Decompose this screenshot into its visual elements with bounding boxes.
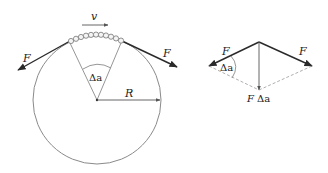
vector-force-label-left: F — [221, 45, 230, 58]
radius-label: R — [124, 87, 133, 100]
force-diagram: v F F Δa R F F Δa F Δa — [0, 0, 328, 173]
resultant-label-f: F — [246, 93, 255, 104]
dashed-line-left — [209, 66, 259, 90]
vector-diagram: F F Δa F Δa — [209, 42, 312, 104]
force-label-right: F — [162, 47, 171, 60]
vector-angle-label: Δa — [220, 62, 233, 73]
vector-force-left — [209, 42, 259, 66]
dashed-line-right — [259, 66, 312, 90]
force-label-left: F — [22, 52, 31, 65]
velocity-label: v — [91, 10, 98, 23]
angle-label: Δa — [89, 72, 102, 83]
angle-arc — [83, 64, 111, 69]
pulley-diagram: v F F Δa R — [18, 10, 177, 164]
chain-beads — [68, 32, 123, 44]
resultant-label-angle: Δa — [257, 93, 270, 104]
vector-force-label-right: F — [298, 45, 307, 58]
